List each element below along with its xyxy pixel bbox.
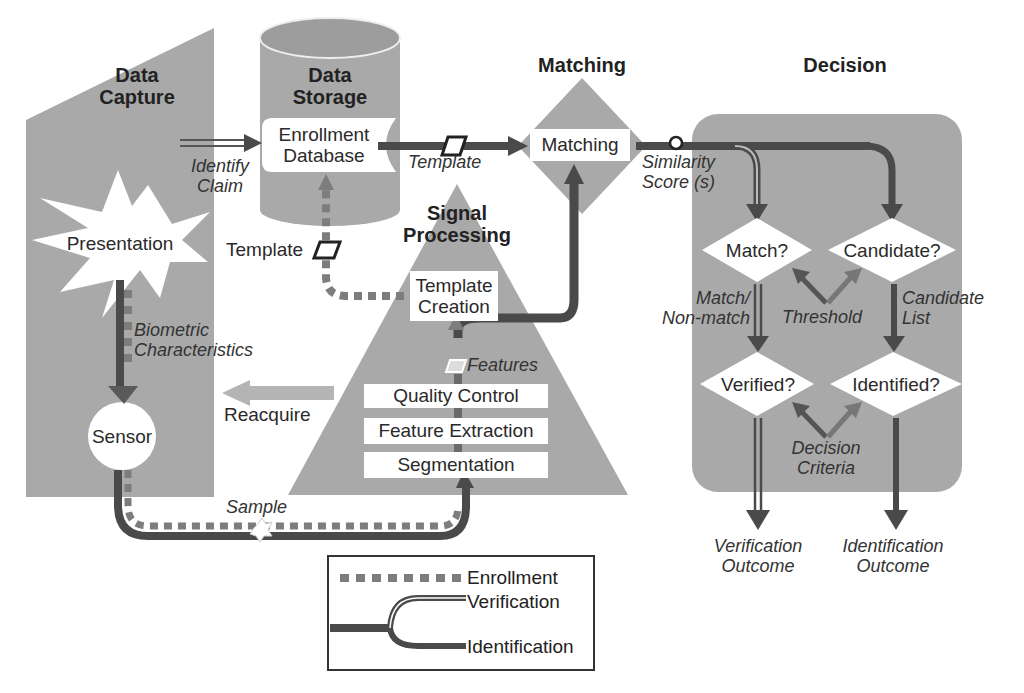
presentation-node: Presentation <box>58 233 182 254</box>
label-line: Outcome <box>828 556 958 576</box>
identification-outcome-label: Identification Outcome <box>828 536 958 576</box>
node-line: Template <box>415 275 492 296</box>
biometric-characteristics-label: Biometric Characteristics <box>134 320 253 360</box>
candidate-question: Candidate? <box>836 240 948 261</box>
title-decision: Decision <box>790 54 900 76</box>
legend-identification: Identification <box>467 636 574 657</box>
node-line: Enrollment <box>264 124 384 145</box>
title-line: Signal <box>398 202 516 224</box>
template-label-left: Template <box>226 239 303 260</box>
node-line: Creation <box>418 296 490 317</box>
label-line: Criteria <box>780 458 872 478</box>
quality-control-node: Quality Control <box>364 384 548 408</box>
template-label-top: Template <box>408 152 481 172</box>
title-matching: Matching <box>526 54 638 76</box>
label-line: Match/ <box>660 288 750 308</box>
similarity-score-label: Similarity Score (s) <box>642 152 715 192</box>
title-line: Processing <box>398 224 516 246</box>
label-line: Similarity <box>642 152 715 172</box>
features-label: Features <box>467 355 538 375</box>
reacquire-label: Reacquire <box>224 404 311 425</box>
label-line: Identify <box>184 156 256 176</box>
title-line: Capture <box>82 86 192 108</box>
template-creation-node: Template Creation <box>410 271 498 321</box>
title-data-capture: Data Capture <box>82 64 192 109</box>
sample-label: Sample <box>226 497 287 517</box>
legend-verification: Verification <box>467 591 560 612</box>
sensor-node: Sensor <box>88 426 156 447</box>
verified-question: Verified? <box>710 374 806 395</box>
title-data-storage: Data Storage <box>280 64 380 109</box>
verification-outcome-label: Verification Outcome <box>696 536 820 576</box>
label-line: Identification <box>828 536 958 556</box>
title-signal-processing: Signal Processing <box>398 202 516 247</box>
node-line: Database <box>264 145 384 166</box>
features-token <box>446 360 466 372</box>
segmentation-node: Segmentation <box>364 452 548 478</box>
legend-enrollment: Enrollment <box>467 567 558 588</box>
match-nonmatch-label: Match/ Non-match <box>660 288 750 328</box>
feature-extraction-node: Feature Extraction <box>364 418 548 444</box>
matching-node: Matching <box>530 129 630 161</box>
label-line: Outcome <box>696 556 820 576</box>
title-line: Storage <box>280 86 380 108</box>
identified-question: Identified? <box>842 374 950 395</box>
label-line: Claim <box>184 176 256 196</box>
label-line: Biometric <box>134 320 253 340</box>
label-line: Candidate <box>902 288 984 308</box>
label-line: Score (s) <box>642 172 715 192</box>
label-line: Verification <box>696 536 820 556</box>
enrollment-database-node: Enrollment Database <box>264 124 384 167</box>
label-line: List <box>902 308 984 328</box>
label-line: Characteristics <box>134 340 253 360</box>
threshold-label: Threshold <box>782 307 862 327</box>
reacquire-arrow <box>222 380 334 406</box>
identify-claim-label: Identify Claim <box>184 156 256 196</box>
label-line: Decision <box>780 438 872 458</box>
candidate-list-label: Candidate List <box>902 288 984 328</box>
template-token-left <box>314 242 340 258</box>
label-line: Non-match <box>660 308 750 328</box>
title-line: Data <box>280 64 380 86</box>
title-line: Data <box>82 64 192 86</box>
match-question: Match? <box>716 240 798 261</box>
decision-criteria-label: Decision Criteria <box>780 438 872 478</box>
